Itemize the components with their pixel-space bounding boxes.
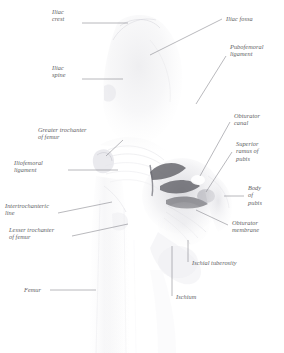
- leader-greater-trochanter: [106, 140, 123, 156]
- label-iliac-fossa: Iliac fossa: [226, 15, 253, 22]
- label-greater-trochanter: Greater trochanter of femur: [38, 126, 87, 141]
- greater-trochanter: [93, 149, 114, 173]
- iliac-crest-ridge: [113, 19, 156, 40]
- leader-intertrochanteric-line: [58, 202, 112, 213]
- leader-obturator-canal: [200, 122, 230, 176]
- label-iliac-crest: Iliac crest: [52, 8, 64, 23]
- pubis-region: [204, 170, 232, 232]
- label-ischium: Ischium: [176, 293, 196, 300]
- obturator-membrane: [158, 202, 210, 246]
- leader-superior-ramus: [206, 152, 232, 192]
- anatomical-figure: Iliac crest Iliac spine Greater trochant…: [0, 0, 284, 353]
- label-femur: Femur: [24, 286, 41, 293]
- intertrochanteric-line-ridge: [104, 186, 126, 212]
- label-superior-ramus-of-pubis: Superior ramus of pubis: [236, 140, 259, 162]
- acetabulum-region: [142, 158, 222, 234]
- joint-cleft-upper: [150, 163, 186, 180]
- label-pubofemoral-ligament: Pubofemoral ligament: [230, 43, 263, 58]
- label-iliofemoral-ligament: Iliofemoral ligament: [14, 159, 43, 174]
- femoral-neck-edge: [150, 165, 153, 196]
- label-intertrochanteric-line: Intertrochanteric line: [5, 202, 49, 217]
- iliac-spine-knob: [104, 84, 116, 101]
- lesser-trochanter: [112, 212, 128, 230]
- ilium-region: [103, 15, 182, 144]
- leader-lesser-trochanter: [72, 224, 128, 236]
- label-obturator-membrane: Obturator membrane: [232, 219, 259, 234]
- label-lesser-trochanter: Lesser trochanter of femur: [9, 226, 54, 241]
- iliofemoral-ligament-fibers: [100, 137, 168, 190]
- label-iliac-spine: Iliac spine: [52, 64, 66, 79]
- femur-shaft: [90, 176, 136, 353]
- leader-pubofemoral-ligament: [196, 56, 226, 104]
- leader-obturator-membrane: [196, 210, 228, 225]
- label-obturator-canal: Obturator canal: [234, 112, 260, 127]
- label-body-of-pubis: Body of pubis: [248, 184, 262, 206]
- leader-iliac-fossa: [150, 19, 222, 55]
- label-ischial-tuberosity: Ischial tuberosity: [192, 259, 237, 266]
- obturator-canal-opening: [191, 175, 205, 185]
